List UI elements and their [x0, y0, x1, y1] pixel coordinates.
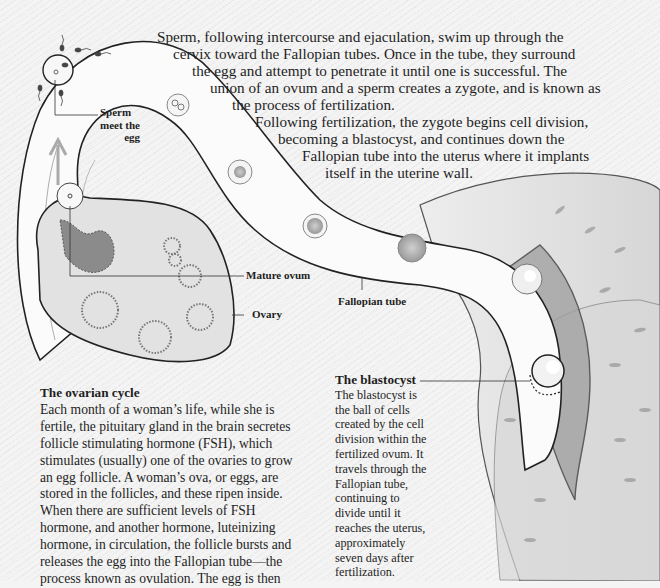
ovarian-line: process known as ovulation. The egg is t…	[40, 571, 293, 588]
ovarian-line: When there are sufficient levels of FSH	[40, 503, 293, 520]
intro-line: itself in the uterine wall.	[325, 164, 473, 181]
blastocyst-line: divide until it	[335, 506, 426, 521]
ovarian-line: releases the egg into the Fallopian tube…	[40, 554, 293, 571]
label-line: egg	[100, 131, 140, 144]
ovarian-cycle-title: The ovarian cycle	[40, 385, 293, 402]
label-line: meet the	[100, 119, 140, 132]
blastocyst-line: The blastocyst is	[335, 388, 426, 403]
intro-line: the process of fertilization.	[232, 96, 395, 113]
blastocyst-line: reaches the uterus,	[335, 521, 426, 536]
label-ovary: Ovary	[252, 308, 282, 321]
ovarian-line: hormone, in circulation, the follicle bu…	[40, 537, 293, 554]
blastocyst-section: The blastocyst The blastocyst is the bal…	[335, 373, 426, 580]
ovarian-line: hormone, and another hormone, luteinizin…	[40, 520, 293, 537]
blastocyst-line: Fallopian tube,	[335, 477, 426, 492]
blastocyst-line: approximately	[335, 536, 426, 551]
blastocyst-line: created by the cell	[335, 417, 426, 432]
blastocyst-line: continuing to	[335, 491, 426, 506]
intro-line: cervix toward the Fallopian tubes. Once …	[173, 45, 575, 62]
label-sperm-meet-egg: Sperm meet the egg	[100, 106, 140, 144]
intro-line: the egg and attempt to penetrate it unti…	[192, 62, 567, 79]
ovarian-line: follicle stimulating hormone (FSH), whic…	[40, 436, 293, 453]
ovarian-line: stored in the follicles, and these ripen…	[40, 486, 293, 503]
intro-line: Fallopian tube into the uterus where it …	[302, 147, 589, 164]
label-mature-ovum: Mature ovum	[246, 269, 310, 282]
ovarian-line: an egg follicle. A woman’s ova, or eggs,…	[40, 470, 293, 487]
label-line: Sperm	[100, 106, 140, 119]
blastocyst-line: seven days after	[335, 551, 426, 566]
ovarian-line: Each month of a woman’s life, while she …	[40, 402, 293, 419]
intro-line: union of an ovum and a sperm creates a z…	[210, 79, 601, 96]
label-fallopian-tube: Fallopian tube	[338, 295, 406, 308]
blastocyst-line: travels through the	[335, 462, 426, 477]
blastocyst-title: The blastocyst	[335, 373, 426, 388]
intro-line: Following fertilization, the zygote begi…	[255, 113, 588, 130]
intro-line: becoming a blastocyst, and continues dow…	[278, 130, 564, 147]
blastocyst-line: division within the	[335, 432, 426, 447]
blastocyst-line: the ball of cells	[335, 403, 426, 418]
blastocyst-line: fertilization.	[335, 565, 426, 580]
intro-line: Sperm, following intercourse and ejacula…	[157, 28, 564, 45]
ovarian-line: stimulates (usually) one of the ovaries …	[40, 453, 293, 470]
ovarian-line: fertile, the pituitary gland in the brai…	[40, 419, 293, 436]
blastocyst-line: fertilized ovum. It	[335, 447, 426, 462]
ovarian-cycle-section: The ovarian cycle Each month of a woman’…	[40, 385, 293, 588]
